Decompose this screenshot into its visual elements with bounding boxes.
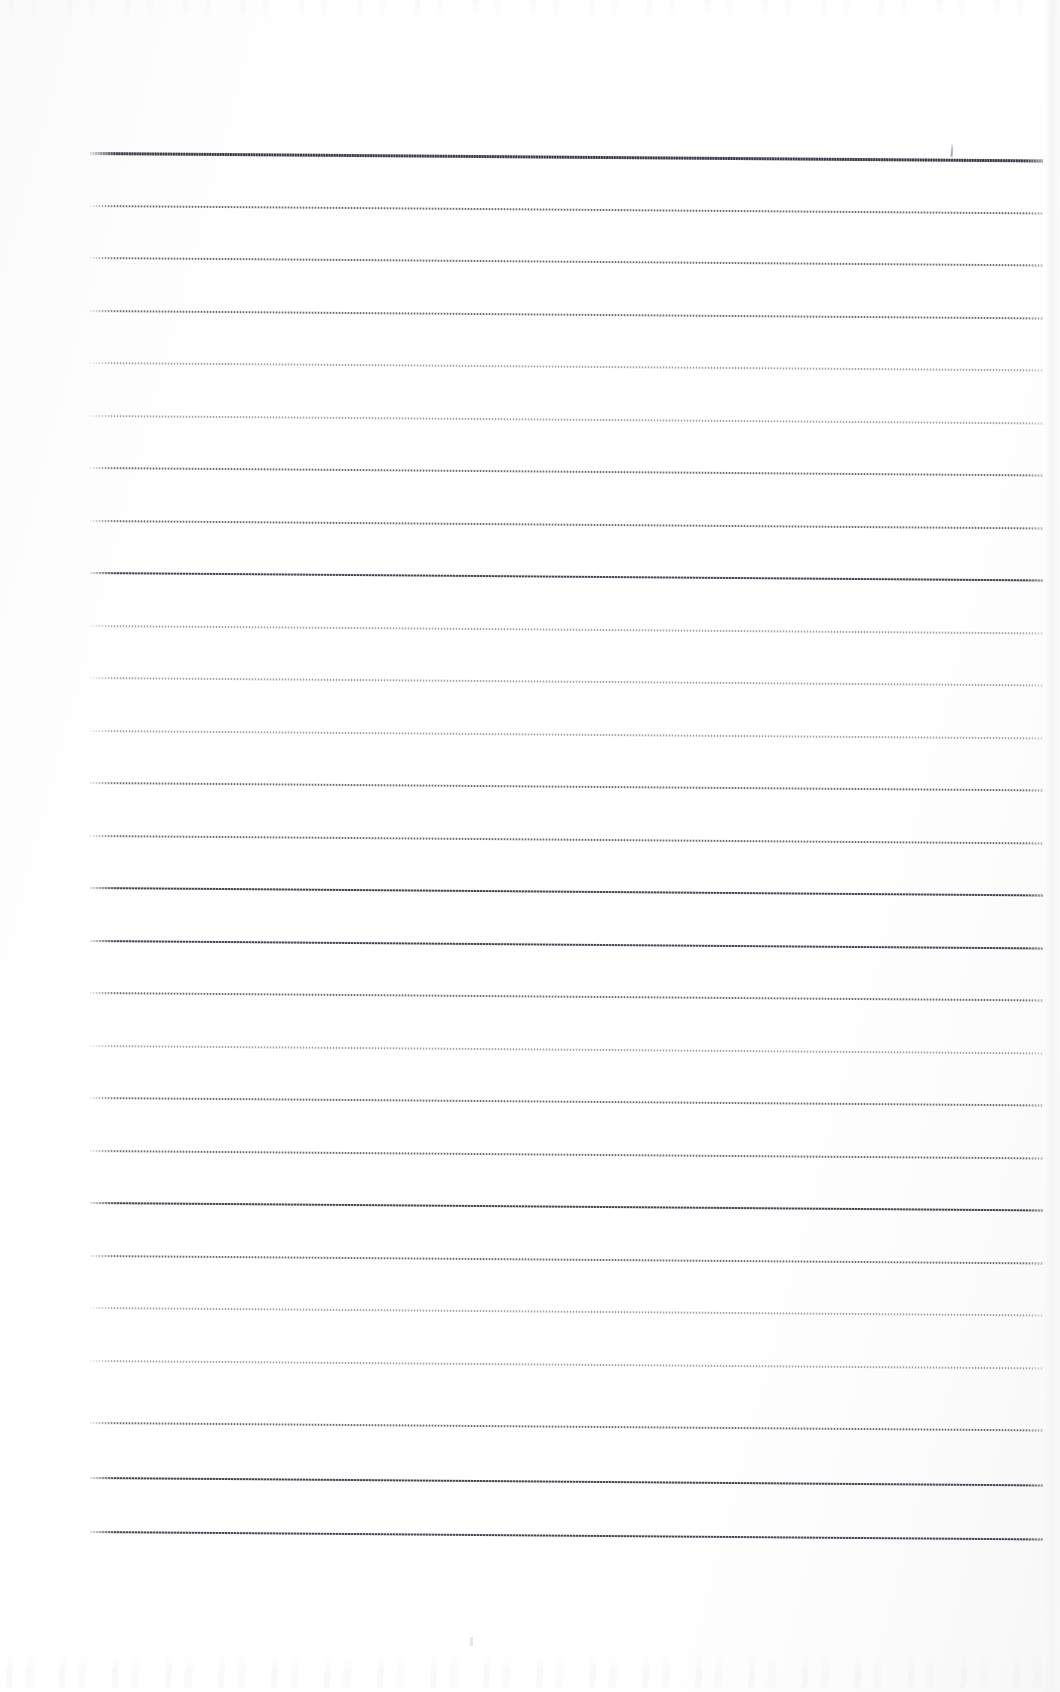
ruled-line [90,1097,1043,1106]
ruled-line [90,520,1043,529]
ruled-lines-group [0,0,1060,1692]
ruled-line [90,940,1043,949]
ruled-line [90,625,1043,634]
ruled-line [90,1531,1043,1540]
ruled-line [90,835,1043,844]
ruled-line [90,730,1043,739]
ruled-line [90,782,1043,791]
ruled-line [90,1360,1043,1369]
ruled-line [90,205,1043,214]
ruled-line [90,992,1043,1001]
ruled-line [90,887,1043,896]
ruled-line [90,310,1043,319]
ruled-line [90,1150,1043,1159]
ruled-line [90,572,1043,581]
ruled-line [90,415,1043,424]
ruled-line [90,362,1043,371]
ruled-line [90,1255,1043,1264]
ruled-line [90,1422,1043,1431]
ruled-line [90,1202,1043,1211]
scanned-page [0,0,1060,1692]
ruled-line [90,1477,1043,1486]
ruled-line [90,257,1043,266]
ruled-line [90,1307,1043,1316]
ruled-line [90,152,1043,162]
scan-dust-speck [470,1637,473,1646]
ruled-line [90,1045,1043,1054]
ruled-line [90,467,1043,476]
ruled-line [90,677,1043,686]
